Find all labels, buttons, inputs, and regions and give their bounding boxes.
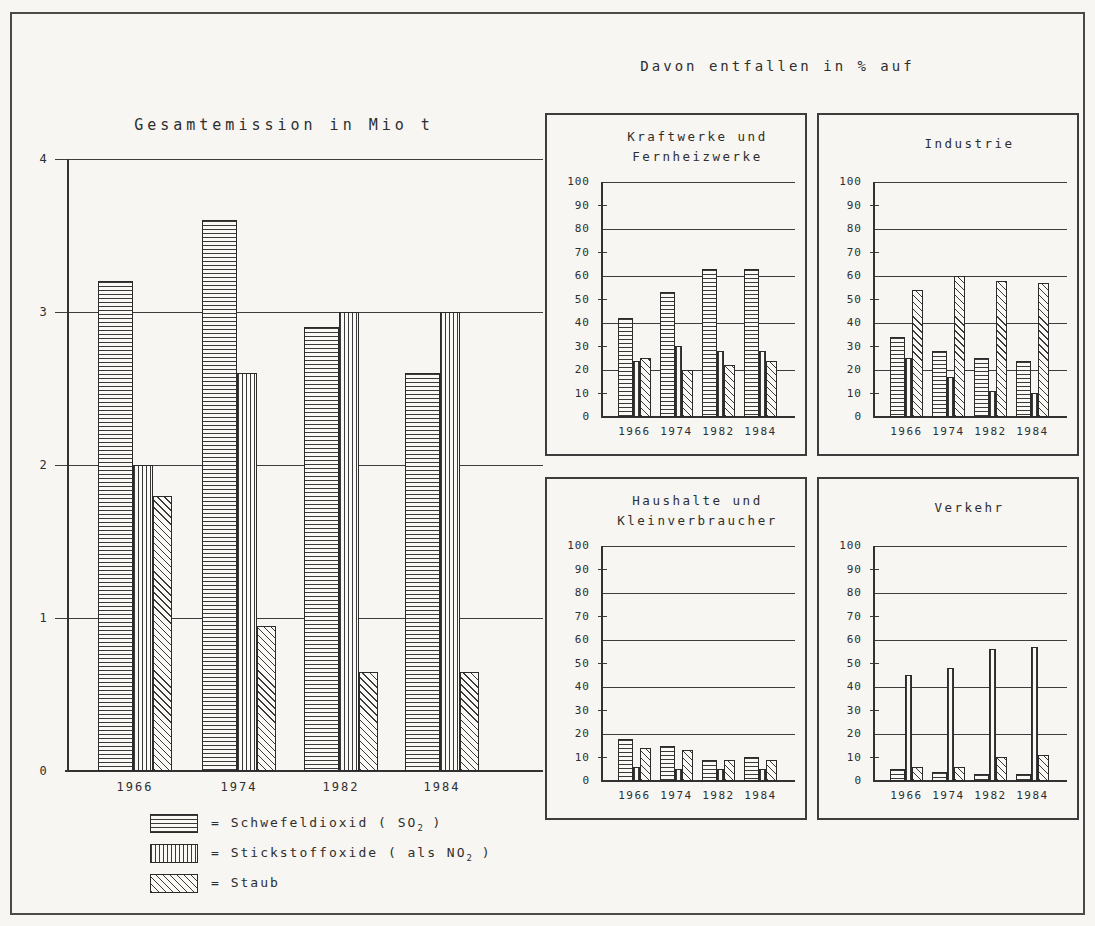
bar-gesamtemission-1974-schwefeldioxid-so2	[202, 220, 237, 771]
small-chart-box-kraftwerke-und-fernheizwerke: Kraftwerke undFernheizwerke0102030405060…	[545, 113, 807, 456]
bar-kraftwerke-und-fernheizwerke-1974-staub	[682, 370, 693, 417]
x-tick-label-1984: 1984	[721, 789, 801, 802]
y-tick-label-60: 60	[552, 632, 590, 648]
bar-verkehr-1974-staub	[954, 767, 965, 781]
x-tick-label-1984: 1984	[993, 425, 1073, 438]
legend-item-staub: = Staub	[150, 874, 492, 893]
small-chart-title-kraftwerke-und-fernheizwerke: Kraftwerke undFernheizwerke	[600, 127, 795, 167]
bar-verkehr-1974-stickstoffoxide-als-no2	[947, 668, 954, 781]
title-line: Kleinverbraucher	[600, 511, 795, 531]
y-tick-label-70: 70	[824, 609, 862, 625]
bar-haushalte-und-kleinverbraucher-1984-staub	[766, 760, 777, 781]
bar-industrie-1982-staub	[996, 281, 1007, 417]
bar-haushalte-und-kleinverbraucher-1974-staub	[682, 750, 693, 781]
staub-hatch-swatch	[150, 874, 198, 893]
y-tick-label-30: 30	[552, 703, 590, 719]
bar-gesamtemission-1974-staub	[257, 626, 276, 771]
y-tick-label-40: 40	[824, 679, 862, 695]
bar-kraftwerke-und-fernheizwerke-1984-stickstoffoxide-als-no2	[759, 351, 766, 417]
bar-kraftwerke-und-fernheizwerke-1966-stickstoffoxide-als-no2	[633, 361, 640, 417]
y-tick-label-30: 30	[824, 703, 862, 719]
bar-gesamtemission-1984-schwefeldioxid-so2	[405, 373, 440, 771]
legend-item-schwefeldioxid: = Schwefeldioxid ( SO2 )	[150, 814, 492, 833]
bar-kraftwerke-und-fernheizwerke-1982-stickstoffoxide-als-no2	[717, 351, 724, 417]
x-tick-label-1982: 1982	[301, 780, 381, 794]
legend-label-no2: = Stickstoffoxide ( als NO2 )	[211, 845, 492, 863]
y-tick-label-0: 0	[552, 409, 590, 425]
bar-haushalte-und-kleinverbraucher-1966-stickstoffoxide-als-no2	[633, 767, 640, 781]
bar-kraftwerke-und-fernheizwerke-1982-schwefeldioxid-so2	[702, 269, 717, 417]
y-tick-label-0: 0	[824, 409, 862, 425]
title-line: Fernheizwerke	[600, 147, 795, 167]
gridline-80	[602, 229, 795, 230]
bar-verkehr-1982-staub	[996, 757, 1007, 781]
bar-verkehr-1974-schwefeldioxid-so2	[932, 772, 947, 781]
bar-verkehr-1984-stickstoffoxide-als-no2	[1031, 647, 1038, 781]
gridline-20	[874, 734, 1067, 735]
bar-industrie-1984-schwefeldioxid-so2	[1016, 361, 1031, 417]
small-chart-box-verkehr: Verkehr010203040506070809010019661974198…	[817, 477, 1079, 820]
y-tick-label-20: 20	[824, 362, 862, 378]
y-tick-label-50: 50	[824, 292, 862, 308]
bar-haushalte-und-kleinverbraucher-1974-stickstoffoxide-als-no2	[675, 769, 682, 781]
bar-kraftwerke-und-fernheizwerke-1984-staub	[766, 361, 777, 417]
y-tick-label-30: 30	[824, 339, 862, 355]
no2-hatch-swatch	[150, 844, 198, 863]
y-tick-label-70: 70	[552, 245, 590, 261]
bar-haushalte-und-kleinverbraucher-1984-schwefeldioxid-so2	[744, 757, 759, 781]
bar-gesamtemission-1974-stickstoffoxide-als-no2	[237, 373, 257, 771]
y-tick-label-100: 100	[552, 538, 590, 554]
gridline-60	[874, 276, 1067, 277]
y-tick-label-70: 70	[552, 609, 590, 625]
small-chart-box-haushalte-und-kleinverbraucher: Haushalte undKleinverbraucher01020304050…	[545, 477, 807, 820]
bar-haushalte-und-kleinverbraucher-1974-schwefeldioxid-so2	[660, 746, 675, 781]
bar-gesamtemission-1984-staub	[460, 672, 479, 771]
y-tick-label-80: 80	[552, 585, 590, 601]
plot-area-industrie: 01020304050607080901001966197419821984	[874, 182, 1067, 417]
bar-kraftwerke-und-fernheizwerke-1966-staub	[640, 358, 651, 417]
gridline-100	[874, 546, 1067, 547]
y-tick-label-2: 2	[32, 457, 54, 473]
x-tick-label-1974: 1974	[199, 780, 279, 794]
bar-verkehr-1984-staub	[1038, 755, 1049, 781]
small-chart-title-haushalte-und-kleinverbraucher: Haushalte undKleinverbraucher	[600, 491, 795, 531]
bar-verkehr-1982-schwefeldioxid-so2	[974, 774, 989, 781]
y-tick-label-0: 0	[552, 773, 590, 789]
gridline-100	[602, 182, 795, 183]
x-tick-label-1984: 1984	[993, 789, 1073, 802]
y-tick-label-10: 10	[824, 750, 862, 766]
gridline-60	[602, 276, 795, 277]
gridline-60	[874, 640, 1067, 641]
bar-industrie-1966-stickstoffoxide-als-no2	[905, 358, 912, 417]
bar-gesamtemission-1984-stickstoffoxide-als-no2	[440, 312, 460, 771]
bar-verkehr-1966-stickstoffoxide-als-no2	[905, 675, 912, 781]
title-line: Kraftwerke und	[600, 127, 795, 147]
bar-gesamtemission-1966-staub	[153, 496, 172, 771]
y-tick-label-40: 40	[552, 679, 590, 695]
bar-haushalte-und-kleinverbraucher-1982-schwefeldioxid-so2	[702, 760, 717, 781]
gridline-80	[874, 593, 1067, 594]
bar-kraftwerke-und-fernheizwerke-1966-schwefeldioxid-so2	[618, 318, 633, 417]
bar-verkehr-1984-schwefeldioxid-so2	[1016, 774, 1031, 781]
bar-kraftwerke-und-fernheizwerke-1984-schwefeldioxid-so2	[744, 269, 759, 417]
gridline-60	[602, 640, 795, 641]
bar-industrie-1974-staub	[954, 276, 965, 417]
y-tick-label-0: 0	[32, 763, 54, 779]
bar-gesamtemission-1966-schwefeldioxid-so2	[98, 281, 133, 771]
legend: = Schwefeldioxid ( SO2 ) = Stickstoffoxi…	[150, 814, 492, 893]
bar-verkehr-1982-stickstoffoxide-als-no2	[989, 649, 996, 781]
x-tick-label-1966: 1966	[95, 780, 175, 794]
y-tick-label-100: 100	[824, 538, 862, 554]
bar-gesamtemission-1982-staub	[359, 672, 378, 771]
y-tick-label-90: 90	[824, 198, 862, 214]
y-tick-label-80: 80	[824, 221, 862, 237]
y-tick-label-90: 90	[824, 562, 862, 578]
gridline-4	[55, 159, 543, 160]
gridline-100	[602, 546, 795, 547]
so2-hatch-swatch	[150, 814, 198, 833]
y-tick-label-60: 60	[824, 632, 862, 648]
plot-area-kraftwerke-und-fernheizwerke: 01020304050607080901001966197419821984	[602, 182, 795, 417]
main-chart-title: Gesamtemission in Mio t	[88, 116, 480, 134]
gridline-100	[874, 182, 1067, 183]
x-tick-label-1984: 1984	[721, 425, 801, 438]
